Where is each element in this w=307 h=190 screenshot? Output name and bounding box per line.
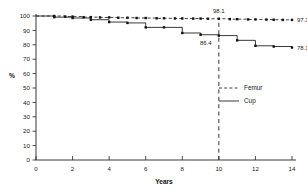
marker-femur-8 <box>117 17 119 19</box>
marker-femur-4 <box>82 16 84 18</box>
x-tick-label-14: 14 <box>289 165 296 172</box>
y-axis-title: % <box>9 72 15 79</box>
annotation-98.1: 98.1 <box>213 8 225 14</box>
y-tick-label-0: 0 <box>27 156 31 163</box>
marker-femur-14 <box>174 17 176 19</box>
marker-femur-13 <box>163 17 165 19</box>
marker-femur-24 <box>265 18 267 20</box>
chart-legend: FemurCup <box>219 84 263 105</box>
x-axis-ticks: 02468101214 <box>34 156 296 172</box>
y-tick-label-30: 30 <box>23 113 30 120</box>
marker-cup-11 <box>236 39 238 41</box>
marker-cup-5 <box>126 22 128 24</box>
series-path-cup <box>36 16 292 48</box>
annotation-86.4: 86.4 <box>200 40 212 46</box>
marker-femur-5 <box>90 16 92 18</box>
marker-cup-4 <box>108 21 110 23</box>
marker-cup-2 <box>71 17 73 19</box>
y-axis-ticks: 0102030405060708090100 <box>20 12 36 163</box>
marker-cup-12 <box>254 45 256 47</box>
marker-cup-7 <box>163 26 165 28</box>
x-tick-label-6: 6 <box>144 165 148 172</box>
y-tick-label-70: 70 <box>23 55 30 62</box>
marker-femur-11 <box>145 17 147 19</box>
marker-femur-2 <box>64 15 66 17</box>
y-tick-label-10: 10 <box>23 142 30 149</box>
marker-femur-19 <box>218 18 220 20</box>
marker-cup-10 <box>218 34 220 36</box>
y-tick-label-50: 50 <box>23 84 30 91</box>
marker-femur-23 <box>254 18 256 20</box>
annotation-78.1: 78.1 <box>297 45 307 51</box>
marker-femur-12 <box>155 17 157 19</box>
y-tick-label-20: 20 <box>23 127 30 134</box>
marker-cup-13 <box>273 45 275 47</box>
marker-femur-17 <box>199 17 201 19</box>
marker-femur-26 <box>282 19 284 21</box>
legend-label-femur: Femur <box>244 84 263 91</box>
marker-cup-1 <box>53 16 55 18</box>
series-paths <box>36 16 292 48</box>
value-annotations: 98.186.497.378.1 <box>200 8 307 51</box>
marker-femur-9 <box>126 17 128 19</box>
marker-femur-20 <box>229 18 231 20</box>
marker-cup-6 <box>145 26 147 28</box>
marker-cup-9 <box>199 34 201 36</box>
marker-femur-15 <box>181 17 183 19</box>
chart-canvas: 0102030405060708090100 02468101214 98.18… <box>0 0 307 190</box>
x-tick-label-4: 4 <box>107 165 111 172</box>
marker-femur-6 <box>99 16 101 18</box>
marker-femur-18 <box>207 18 209 20</box>
y-tick-label-100: 100 <box>20 12 31 19</box>
series-markers <box>53 15 293 49</box>
x-tick-label-8: 8 <box>181 165 185 172</box>
marker-femur-27 <box>291 19 293 21</box>
marker-femur-25 <box>273 19 275 21</box>
y-tick-label-90: 90 <box>23 27 30 34</box>
x-tick-label-10: 10 <box>215 165 222 172</box>
marker-cup-3 <box>90 19 92 21</box>
legend-label-cup: Cup <box>244 97 256 105</box>
marker-cup-14 <box>291 46 293 48</box>
x-tick-label-12: 12 <box>252 165 259 172</box>
y-tick-label-60: 60 <box>23 70 30 77</box>
y-tick-label-80: 80 <box>23 41 30 48</box>
marker-femur-21 <box>236 18 238 20</box>
marker-femur-10 <box>135 17 137 19</box>
marker-femur-7 <box>108 16 110 18</box>
x-tick-label-2: 2 <box>71 165 75 172</box>
plot-area: 0102030405060708090100 02468101214 98.18… <box>20 8 307 172</box>
x-axis-title: Years <box>155 178 173 185</box>
marker-cup-8 <box>181 32 183 34</box>
survival-chart-figure: 0102030405060708090100 02468101214 98.18… <box>0 0 307 190</box>
y-tick-label-40: 40 <box>23 99 30 106</box>
marker-femur-22 <box>247 18 249 20</box>
x-tick-label-0: 0 <box>34 165 38 172</box>
marker-femur-16 <box>192 17 194 19</box>
annotation-97.3: 97.3 <box>297 17 307 23</box>
